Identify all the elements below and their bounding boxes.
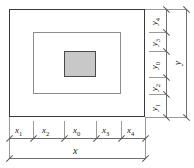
label-x4: x4 xyxy=(127,126,134,137)
label-y4: y4 xyxy=(150,15,161,29)
label-x0: x0 xyxy=(73,126,80,137)
label-y0: y0 xyxy=(150,59,161,73)
extension-line-x-1 xyxy=(33,121,34,138)
label-x2: x2 xyxy=(42,126,49,137)
label-y1: y1 xyxy=(150,101,161,115)
label-y2-base: y xyxy=(149,87,159,91)
label-y3-sub: 3 xyxy=(154,39,161,42)
label-y2-sub: 2 xyxy=(154,84,161,87)
y-segment-dimension-line xyxy=(166,9,167,117)
tick-x-total-end xyxy=(142,155,149,162)
extension-line-y-3 xyxy=(149,77,166,78)
extension-line-x-4 xyxy=(121,121,122,138)
inner-filled-rectangle xyxy=(64,51,96,77)
label-y4-sub: 4 xyxy=(154,18,161,21)
label-y-total-base: y xyxy=(172,61,183,65)
extension-line-y-1 xyxy=(149,32,166,33)
label-y3-base: y xyxy=(149,42,159,46)
label-x-total: x xyxy=(73,146,77,156)
label-y4-base: y xyxy=(149,21,159,25)
extension-line-x-3 xyxy=(96,121,97,138)
label-x-total-base: x xyxy=(73,145,77,156)
label-y1-base: y xyxy=(149,107,159,111)
label-y0-base: y xyxy=(149,65,159,69)
extension-line-y-2 xyxy=(149,51,166,52)
y-total-dimension-line xyxy=(186,9,187,117)
x-total-dimension-line xyxy=(9,158,145,159)
label-y-total: y xyxy=(173,56,183,70)
label-x1-sub: 1 xyxy=(19,130,22,137)
extension-line-x-2 xyxy=(64,121,65,138)
label-y3: y3 xyxy=(150,36,161,50)
dimension-diagram: x1 x2 x0 x3 x4 x y4 y3 y0 y2 xyxy=(0,0,194,168)
label-x4-sub: 4 xyxy=(131,130,134,137)
label-x0-sub: 0 xyxy=(77,130,80,137)
label-x3: x3 xyxy=(102,126,109,137)
label-y1-sub: 1 xyxy=(154,104,161,107)
label-y2: y2 xyxy=(150,81,161,95)
label-x3-sub: 3 xyxy=(106,130,109,137)
x-segment-dimension-line xyxy=(9,138,145,139)
label-y0-sub: 0 xyxy=(154,62,161,65)
label-x1: x1 xyxy=(15,126,22,137)
label-x2-sub: 2 xyxy=(46,130,49,137)
